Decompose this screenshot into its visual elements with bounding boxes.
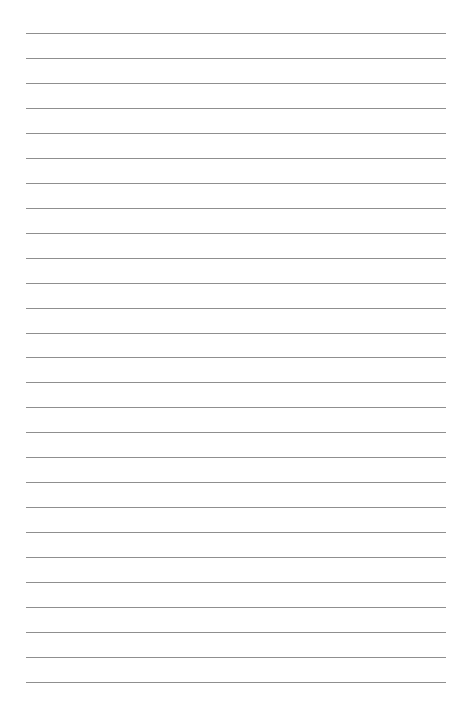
ruled-line [26,357,446,358]
ruled-line [26,108,446,109]
ruled-line [26,283,446,284]
ruled-line [26,657,446,658]
ruled-line [26,208,446,209]
ruled-line [26,258,446,259]
ruled-line [26,557,446,558]
ruled-line [26,58,446,59]
lined-paper-page [0,0,454,702]
ruled-line [26,158,446,159]
ruled-line [26,682,446,683]
ruled-line [26,233,446,234]
ruled-line [26,382,446,383]
ruled-line [26,432,446,433]
ruled-line [26,407,446,408]
ruled-line [26,532,446,533]
ruled-line [26,507,446,508]
ruled-line [26,607,446,608]
ruled-line [26,133,446,134]
ruled-line [26,308,446,309]
ruled-line [26,632,446,633]
ruled-line [26,482,446,483]
ruled-line [26,333,446,334]
ruled-line [26,457,446,458]
ruled-line [26,83,446,84]
ruled-line [26,582,446,583]
ruled-line [26,33,446,34]
ruled-line [26,183,446,184]
